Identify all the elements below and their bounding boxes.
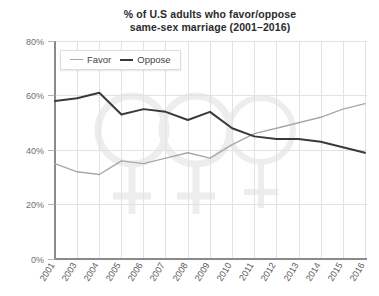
y-axis-tick-labels: 80% 60% 40% 20% 0% [26, 37, 44, 265]
x-tick-label-2015: 2015 [326, 261, 345, 283]
x-tick-label-2004: 2004 [82, 261, 101, 283]
x-tick-label-2013: 2013 [282, 261, 301, 283]
x-tick-label-2014: 2014 [304, 261, 323, 283]
chart-legend: Favor Oppose [60, 50, 181, 70]
y-tick-label-60: 60% [26, 91, 44, 101]
legend-entry-favor: Favor [70, 54, 111, 65]
x-tick-label-2005: 2005 [104, 261, 123, 283]
legend-entry-oppose: Oppose [120, 54, 170, 65]
legend-label-favor: Favor [87, 54, 111, 65]
line-chart-plot: 80% 60% 40% 20% 0% 2001 2003 2004 2005 2… [0, 0, 379, 296]
legend-label-oppose: Oppose [137, 54, 170, 65]
x-tick-label-2006: 2006 [126, 261, 145, 283]
x-tick-label-2016: 2016 [348, 261, 367, 283]
y-tick-label-20: 20% [26, 200, 44, 210]
y-tick-label-0: 0% [31, 255, 44, 265]
y-tick-label-80: 80% [26, 37, 44, 47]
x-tick-label-2007: 2007 [148, 261, 167, 283]
watermark-female-circle-mid [162, 96, 230, 164]
legend-swatch-favor-icon [70, 59, 83, 60]
x-tick-label-2011: 2011 [237, 261, 256, 283]
y-tick-label-40: 40% [26, 146, 44, 156]
x-axis-tick-labels: 2001 2003 2004 2005 2006 2007 2008 2009 … [38, 261, 367, 283]
x-tick-label-2010: 2010 [215, 261, 234, 283]
y-axis [48, 41, 55, 259]
watermark-female-circle-left [98, 96, 166, 164]
x-tick-label-2009: 2009 [193, 261, 212, 283]
chart-container: % of U.S adults who favor/oppose same-se… [0, 0, 379, 296]
x-tick-label-2008: 2008 [171, 261, 190, 283]
x-tick-label-2012: 2012 [259, 261, 278, 283]
x-tick-label-2003: 2003 [60, 261, 79, 283]
legend-swatch-oppose-icon [120, 59, 133, 61]
